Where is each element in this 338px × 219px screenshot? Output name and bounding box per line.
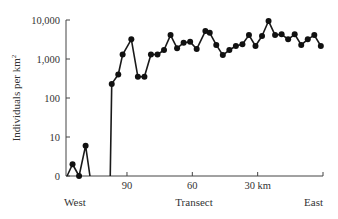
x-axis-title: Transect bbox=[175, 196, 212, 208]
east-label: East bbox=[304, 196, 323, 208]
data-point-marker bbox=[135, 74, 141, 80]
y-axis: 0101001,00010,000 bbox=[31, 15, 70, 182]
y-tick-label: 10,000 bbox=[31, 15, 60, 26]
x-axis: 906030 km bbox=[66, 172, 323, 191]
data-point-marker bbox=[311, 32, 317, 38]
data-point-marker bbox=[109, 81, 115, 87]
x-tick-label: 60 bbox=[187, 180, 198, 191]
data-point-marker bbox=[220, 52, 226, 58]
data-point-marker bbox=[292, 31, 298, 37]
data-point-marker bbox=[70, 161, 76, 167]
data-point-marker bbox=[187, 39, 193, 45]
data-point-marker bbox=[305, 36, 311, 42]
data-point-marker bbox=[128, 36, 134, 42]
data-point-marker bbox=[318, 43, 324, 49]
data-point-marker bbox=[213, 42, 219, 48]
data-point-marker bbox=[161, 47, 167, 53]
data-point-marker bbox=[272, 32, 278, 38]
data-point-marker bbox=[83, 143, 89, 149]
data-point-marker bbox=[259, 33, 265, 39]
data-point-marker bbox=[120, 52, 126, 58]
y-tick-label: 10 bbox=[50, 132, 61, 143]
data-point-marker bbox=[148, 52, 154, 58]
data-point-marker bbox=[194, 46, 200, 52]
y-tick-label: 1,000 bbox=[36, 54, 60, 65]
west-label: West bbox=[64, 196, 86, 208]
data-point-marker bbox=[266, 18, 272, 24]
y-tick-label: 0 bbox=[55, 171, 60, 182]
data-point-marker bbox=[174, 45, 180, 51]
data-point-marker bbox=[285, 36, 291, 42]
data-point-marker bbox=[233, 43, 239, 49]
data-point-marker bbox=[115, 72, 121, 78]
data-point-marker bbox=[252, 43, 258, 49]
y-tick-label: 100 bbox=[44, 93, 60, 104]
y-axis-title: Individuals per km2 bbox=[10, 54, 22, 141]
data-point-marker bbox=[239, 41, 245, 47]
data-point-marker bbox=[207, 30, 213, 36]
population-transect-chart: 0101001,00010,000 906030 km Individuals … bbox=[0, 0, 338, 219]
x-tick-label: 90 bbox=[122, 180, 133, 191]
data-point-marker bbox=[226, 47, 232, 53]
data-point-marker bbox=[76, 173, 82, 179]
data-point-marker bbox=[168, 32, 174, 38]
x-tick-label: 30 km bbox=[244, 180, 271, 191]
data-point-marker bbox=[141, 74, 147, 80]
data-series bbox=[67, 18, 324, 179]
data-point-marker bbox=[154, 52, 160, 58]
series-line bbox=[67, 146, 90, 176]
data-point-marker bbox=[279, 31, 285, 37]
data-point-marker bbox=[246, 32, 252, 38]
data-point-marker bbox=[181, 40, 187, 46]
data-point-marker bbox=[298, 42, 304, 48]
